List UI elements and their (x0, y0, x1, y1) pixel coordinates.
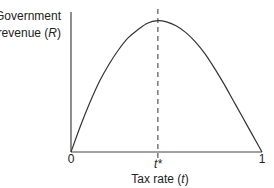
x-tick-labels: 0t*1 (68, 152, 266, 171)
x-tick-label: 0 (68, 152, 75, 166)
y-axis-label-variable: R (48, 26, 57, 40)
laffer-curve-chart: Government revenue (R) 0t*1 Tax rate (t) (0, 0, 274, 188)
x-tick-label: t* (154, 157, 162, 171)
y-axis-label-suffix: ) (57, 26, 61, 40)
x-axis-label: Tax rate (t) (131, 172, 188, 186)
revenue-curve (71, 21, 262, 152)
x-tick-label: 1 (259, 152, 266, 166)
x-axis-label-suffix: ) (185, 172, 189, 186)
y-axis-label-line1: Government (0, 9, 62, 23)
x-axis-label-prefix: Tax rate ( (131, 172, 181, 186)
y-axis-label-prefix: revenue ( (0, 26, 48, 40)
y-axis-label-line2: revenue (R) (0, 26, 61, 40)
